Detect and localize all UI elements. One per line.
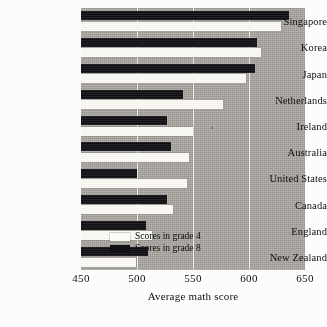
bar-grade8-korea	[81, 38, 257, 47]
bar-grade8-netherlands	[81, 90, 183, 99]
bar-grade8-england	[81, 221, 146, 230]
category-label-netherlands: Netherlands	[249, 94, 327, 105]
chart-figure: SingaporeKoreaJapanNetherlandsIrelandAus…	[0, 0, 327, 327]
category-label-ireland: Ireland	[249, 120, 327, 131]
category-label-australia: Australia	[249, 147, 327, 158]
bar-grade4-united-states	[81, 179, 187, 188]
x-tick-500: 500	[128, 272, 145, 284]
category-label-japan: Japan	[249, 68, 327, 79]
legend-item-grade8: Scores in grade 8	[110, 243, 201, 254]
bar-grade8-australia	[81, 142, 171, 151]
legend-label-grade8: Scores in grade 8	[135, 243, 201, 254]
x-tick-650: 650	[296, 272, 313, 284]
x-tick-450: 450	[72, 272, 89, 284]
x-tick-600: 600	[240, 272, 257, 284]
category-label-canada: Canada	[249, 199, 327, 210]
bar-grade4-netherlands	[81, 100, 223, 109]
category-label-united-states: United States	[249, 173, 327, 184]
bar-grade4-australia	[81, 153, 189, 162]
legend: Scores in grade 4 Scores in grade 8	[110, 231, 201, 255]
x-tick-550: 550	[184, 272, 201, 284]
legend-swatch-grade8	[110, 245, 130, 253]
bar-grade4-canada	[81, 205, 173, 214]
bar-grade8-japan	[81, 64, 255, 73]
category-label-england: England	[249, 225, 327, 236]
bar-grade8-canada	[81, 195, 167, 204]
legend-swatch-grade4	[110, 233, 130, 241]
bar-grade4-ireland	[81, 127, 193, 136]
bar-grade4-new-zealand	[81, 258, 136, 267]
bar-grade8-united-states	[81, 169, 137, 178]
bar-grade4-korea	[81, 48, 261, 57]
scan-speck	[211, 127, 213, 129]
category-label-korea: Korea	[249, 42, 327, 53]
category-label-singapore: Singapore	[249, 16, 327, 27]
category-label-new-zealand: New Zealand	[249, 251, 327, 262]
bar-grade8-ireland	[81, 116, 167, 125]
legend-label-grade4: Scores in grade 4	[135, 231, 201, 242]
x-axis-title: Average math score	[81, 290, 305, 302]
legend-item-grade4: Scores in grade 4	[110, 231, 201, 242]
bar-grade4-japan	[81, 74, 246, 83]
